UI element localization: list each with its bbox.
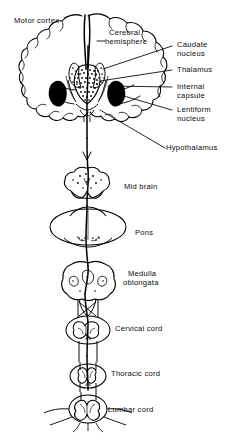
label-caudate-nucleus-line2: nucleus — [177, 50, 205, 58]
label-hypothalamus: Hypothalamus — [166, 144, 218, 153]
leader-lentiform-nucleus — [124, 96, 172, 110]
label-mid-brain: Mid brain — [124, 183, 157, 192]
leader-thalamus — [100, 70, 172, 81]
label-thoracic-cord: Thoracic cord — [111, 370, 160, 379]
label-motor-cortex: Motor cortex — [14, 17, 59, 26]
label-thalamus: Thalamus — [177, 66, 212, 75]
label-lumbar-cord: Lumbar cord — [108, 406, 153, 415]
label-cervical-cord: Cervical cord — [115, 325, 163, 334]
label-medulla-oblongata-line2: oblongata — [123, 279, 159, 287]
label-cerebral-hemisphere-line2: hemisphere — [105, 38, 147, 46]
label-internal-capsule-line2: capsule — [177, 92, 205, 100]
cerebral-hemisphere-coronal-section — [19, 14, 167, 122]
label-pons: Pons — [135, 229, 153, 238]
label-lentiform-nucleus-line2: nucleus — [177, 115, 205, 123]
pons — [50, 207, 126, 247]
anatomical-figure: Motor cortex Cerebral hemisphere Caudate… — [0, 0, 226, 435]
leader-hypothalamus — [100, 110, 165, 148]
